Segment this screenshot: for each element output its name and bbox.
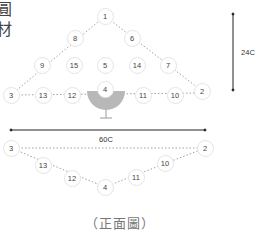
bottom-node-13: 13 <box>35 157 52 174</box>
bottom-node-4: 4 <box>97 179 114 196</box>
front-node-4: 4 <box>97 81 114 98</box>
bottom-node-12: 12 <box>64 170 81 187</box>
height-dimension-label: 24C <box>241 48 255 57</box>
front-node-11: 11 <box>135 87 152 104</box>
front-node-8: 8 <box>67 30 84 47</box>
height-dimension-arrow <box>232 13 234 91</box>
front-node-3: 3 <box>3 87 20 104</box>
front-node-10: 10 <box>167 87 184 104</box>
diagram-canvas: 圓 材 <box>0 0 256 232</box>
front-node-13: 13 <box>35 87 52 104</box>
width-dimension-label: 60C <box>99 135 113 144</box>
bottom-node-2: 2 <box>197 140 214 157</box>
front-node-1: 1 <box>97 8 114 25</box>
width-dimension-arrow <box>10 129 206 131</box>
diagram-caption: （正面圖） <box>85 213 155 232</box>
front-node-14: 14 <box>129 57 146 74</box>
front-node-5: 5 <box>97 57 114 74</box>
front-node-9: 9 <box>34 57 51 74</box>
bottom-node-10: 10 <box>157 155 174 172</box>
front-node-7: 7 <box>160 57 177 74</box>
bottom-node-3: 3 <box>3 140 20 157</box>
front-node-12: 12 <box>64 87 81 104</box>
bottom-node-11: 11 <box>128 169 145 186</box>
front-node-2: 2 <box>194 83 211 100</box>
front-node-6: 6 <box>124 30 141 47</box>
front-node-15: 15 <box>66 57 83 74</box>
